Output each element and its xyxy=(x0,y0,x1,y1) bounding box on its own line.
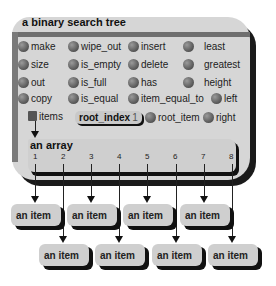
feature-dot-icon xyxy=(128,93,139,104)
feature-insert[interactable]: insert xyxy=(128,41,165,52)
arrow-down-icon xyxy=(143,196,151,203)
array-index-4: 4 xyxy=(117,152,121,161)
ref-line-3 xyxy=(91,164,92,198)
feature-dot-icon xyxy=(18,59,29,70)
arrow-down-icon xyxy=(200,196,208,203)
feature-right[interactable]: right xyxy=(203,112,235,123)
array-title: an array xyxy=(30,139,73,151)
feature-root-item[interactable]: root_item xyxy=(145,112,200,123)
array-index-6: 6 xyxy=(173,152,177,161)
feature-is-empty[interactable]: is_empty xyxy=(68,59,121,70)
arrow-down-icon xyxy=(31,131,39,138)
feature-dot-icon xyxy=(128,41,139,52)
ref-line-1 xyxy=(35,164,36,198)
item-3[interactable]: an item xyxy=(67,204,117,226)
feature-out[interactable]: out xyxy=(18,77,45,88)
arrow-down-icon xyxy=(172,236,180,243)
feature-left[interactable]: left xyxy=(211,93,237,104)
feature-dot-icon xyxy=(203,112,214,123)
arrow-down-icon xyxy=(31,196,39,203)
bst-title-bar xyxy=(12,32,250,37)
feature-dot-icon xyxy=(183,77,194,88)
feature-is-equal[interactable]: is_equal xyxy=(68,93,118,104)
bst-title: a binary search tree xyxy=(22,16,126,28)
arrow-down-icon xyxy=(59,236,67,243)
ref-line-5 xyxy=(147,164,148,198)
feature-has[interactable]: has xyxy=(128,77,157,88)
feature-dot-icon xyxy=(18,41,29,52)
array-index-7: 7 xyxy=(201,152,205,161)
feature-dot-icon xyxy=(211,93,222,104)
feature-dot-icon xyxy=(68,77,79,88)
item-6[interactable]: an item xyxy=(152,244,202,266)
items-reference-icon xyxy=(28,111,37,121)
feature-greatest[interactable]: greatest xyxy=(183,59,240,70)
feature-item-equal-to[interactable]: item_equal_to xyxy=(128,93,204,104)
array-index-1: 1 xyxy=(33,152,37,161)
feature-height[interactable]: height xyxy=(183,77,231,88)
feature-dot-icon xyxy=(18,77,29,88)
feature-dot-icon xyxy=(68,59,79,70)
feature-make[interactable]: make xyxy=(18,41,55,52)
feature-dot-icon xyxy=(18,93,29,104)
item-4[interactable]: an item xyxy=(95,244,145,266)
arrow-down-icon xyxy=(115,236,123,243)
array-index-2: 2 xyxy=(61,152,65,161)
feature-dot-icon xyxy=(145,112,156,123)
feature-delete[interactable]: delete xyxy=(128,59,168,70)
arrow-down-icon xyxy=(87,196,95,203)
ref-line-7 xyxy=(204,164,205,198)
array-index-3: 3 xyxy=(89,152,93,161)
attribute-items[interactable]: items xyxy=(39,111,63,122)
feature-dot-icon xyxy=(68,41,79,52)
array-index-8: 8 xyxy=(229,152,233,161)
item-1[interactable]: an item xyxy=(11,204,61,226)
feature-size[interactable]: size xyxy=(18,59,49,70)
feature-dot-icon xyxy=(183,59,194,70)
feature-dot-icon xyxy=(128,77,139,88)
item-7[interactable]: an item xyxy=(180,204,230,226)
feature-wipe-out[interactable]: wipe_out xyxy=(68,41,121,52)
item-8[interactable]: an item xyxy=(208,244,258,266)
array-index-5: 5 xyxy=(145,152,149,161)
feature-is-full[interactable]: is_full xyxy=(68,77,107,88)
feature-least[interactable]: least xyxy=(183,41,225,52)
item-2[interactable]: an item xyxy=(39,244,89,266)
feature-copy[interactable]: copy xyxy=(18,93,52,104)
feature-dot-icon xyxy=(68,93,79,104)
attribute-root-index[interactable]: root_index1 xyxy=(75,111,142,124)
feature-dot-icon xyxy=(183,41,194,52)
item-5[interactable]: an item xyxy=(123,204,173,226)
feature-dot-icon xyxy=(128,59,139,70)
arrow-down-icon xyxy=(228,236,236,243)
